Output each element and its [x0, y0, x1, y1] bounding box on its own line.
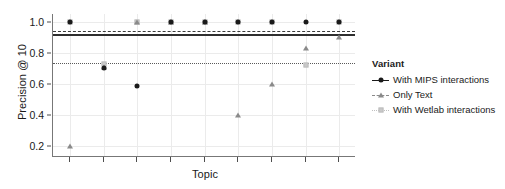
x-tick-mark	[103, 157, 104, 162]
data-point	[303, 46, 309, 51]
x-tick-mark	[69, 157, 70, 162]
data-point	[67, 144, 73, 149]
data-point	[303, 63, 308, 68]
data-point	[336, 35, 342, 40]
data-point	[303, 19, 308, 24]
data-point	[235, 113, 241, 118]
x-tick-mark	[271, 157, 272, 162]
x-tick-mark	[136, 157, 137, 162]
x-tick-mark	[204, 157, 205, 162]
data-point	[236, 19, 241, 24]
data-point	[337, 19, 342, 24]
data-point	[269, 81, 275, 86]
y-tick-mark	[47, 21, 51, 22]
x-axis-tick-marks	[0, 157, 505, 163]
legend-label: With Wetlab interactions	[393, 103, 495, 117]
data-point	[67, 19, 72, 24]
data-point	[202, 19, 207, 24]
legend: Variant With MIPS interactionsOnly TextW…	[372, 58, 500, 118]
x-tick-mark	[170, 157, 171, 162]
legend-entries: With MIPS interactionsOnly TextWith Wetl…	[372, 73, 500, 117]
legend-key-circle-icon	[372, 73, 389, 87]
y-tick-mark	[47, 83, 51, 84]
reference-line-mean-with-wetlab	[53, 31, 355, 32]
reference-line-mean-only-text	[53, 63, 355, 64]
legend-entry: With MIPS interactions	[372, 73, 500, 87]
x-tick-mark	[338, 157, 339, 162]
data-point	[134, 19, 140, 24]
y-tick-mark	[47, 146, 51, 147]
plot-area	[53, 14, 355, 156]
data-point	[101, 66, 106, 71]
data-point	[269, 19, 274, 24]
y-tick-label: 1.0	[18, 16, 44, 28]
legend-key-triangle-icon	[372, 88, 389, 102]
y-tick-mark	[47, 52, 51, 53]
y-tick-label: 0.4	[18, 109, 44, 121]
plot-panel	[52, 14, 355, 157]
x-tick-mark	[305, 157, 306, 162]
legend-label: Only Text	[393, 88, 432, 102]
y-tick-label: 0.6	[18, 78, 44, 90]
data-point	[135, 83, 140, 88]
legend-title: Variant	[372, 58, 500, 69]
legend-entry: With Wetlab interactions	[372, 103, 500, 117]
legend-label: With MIPS interactions	[393, 73, 489, 87]
legend-entry: Only Text	[372, 88, 500, 102]
data-point	[168, 19, 173, 24]
y-tick-label: 0.2	[18, 140, 44, 152]
y-tick-mark	[47, 115, 51, 116]
y-tick-label: 0.8	[18, 47, 44, 59]
reference-line-mean-with-mips	[53, 34, 355, 36]
x-axis-title: Topic	[45, 168, 365, 180]
x-tick-mark	[237, 157, 238, 162]
precision-at-10-scatter-chart: Precision @ 10 0.20.40.60.81.0 Topic Var…	[0, 0, 505, 189]
legend-key-square-icon	[372, 103, 389, 117]
